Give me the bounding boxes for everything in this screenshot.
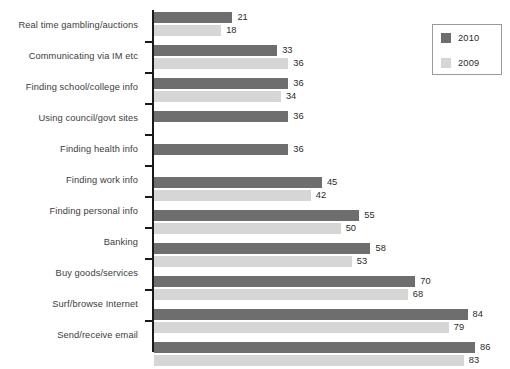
bar-2009: [154, 322, 449, 333]
bar-2009: [154, 58, 288, 69]
bar-2010: [154, 177, 322, 188]
bar-row: 79: [154, 322, 510, 333]
bar-row: 21: [154, 12, 510, 23]
axis-tick: [145, 41, 153, 43]
axis-tick: [145, 227, 153, 229]
bar-value-label: 50: [346, 221, 356, 235]
bar-value-label: 68: [413, 287, 423, 301]
bar-group: 3634: [154, 78, 510, 109]
bar-2009: [154, 91, 281, 102]
category-label: Send/receive email: [0, 320, 146, 351]
bar-group: 36: [154, 144, 510, 175]
axis-tick: [145, 196, 153, 198]
legend-swatch-icon: [441, 33, 451, 43]
bar-2009: [154, 190, 311, 201]
bar-value-label: 34: [286, 89, 296, 103]
category-label: Finding health info: [0, 134, 146, 165]
bar-value-label: 33: [282, 43, 292, 57]
bar-2009: [154, 355, 464, 366]
category-label: Finding school/college info: [0, 72, 146, 103]
bar-2009: [154, 289, 408, 300]
chart-legend: 20102009: [432, 24, 502, 75]
bar-value-label: 42: [316, 188, 326, 202]
category-label: Buy goods/services: [0, 258, 146, 289]
bar-row: 83: [154, 355, 510, 366]
bar-value-label: 70: [420, 274, 430, 288]
bar-chart: Real time gambling/auctionsCommunicating…: [0, 0, 510, 369]
bar-group: 36: [154, 111, 510, 142]
bar-row: 86: [154, 342, 510, 353]
bar-value-label: 58: [375, 241, 385, 255]
bar-value-label: 45: [327, 175, 337, 189]
bar-2010: [154, 144, 288, 155]
bar-row: 70: [154, 276, 510, 287]
bar-2010: [154, 342, 475, 353]
category-label: Real time gambling/auctions: [0, 10, 146, 41]
bar-row: 42: [154, 190, 510, 201]
legend-item-2010[interactable]: 2010: [433, 25, 501, 50]
axis-tick: [145, 320, 153, 322]
bar-row: 36: [154, 78, 510, 89]
bar-value-label: 36: [293, 76, 303, 90]
bar-2010: [154, 309, 468, 320]
bar-2010: [154, 45, 277, 56]
legend-label: 2010: [458, 33, 479, 43]
bar-value-label: 18: [226, 23, 236, 37]
bar-row: 50: [154, 223, 510, 234]
bar-group: 8683: [154, 342, 510, 369]
bar-row: [154, 157, 510, 168]
bar-value-label: 36: [293, 56, 303, 70]
axis-tick: [145, 289, 153, 291]
category-label: Banking: [0, 227, 146, 258]
bar-row: 34: [154, 91, 510, 102]
bar-2010: [154, 78, 288, 89]
bar-value-label: 83: [469, 353, 479, 367]
bar-group: 5853: [154, 243, 510, 274]
bar-row: 84: [154, 309, 510, 320]
category-label: Surf/browse Internet: [0, 289, 146, 320]
category-label: Finding work info: [0, 165, 146, 196]
bar-row: 55: [154, 210, 510, 221]
bar-value-label: 86: [480, 340, 490, 354]
bar-2010: [154, 12, 232, 23]
bar-row: 36: [154, 144, 510, 155]
bar-group: 8479: [154, 309, 510, 340]
bar-row: 58: [154, 243, 510, 254]
bar-value-label: 53: [357, 254, 367, 268]
category-label: Finding personal info: [0, 196, 146, 227]
category-label: Using council/govt sites: [0, 103, 146, 134]
bar-2009: [154, 25, 221, 36]
bar-value-label: 84: [473, 307, 483, 321]
legend-label: 2009: [458, 58, 479, 68]
bar-2009: [154, 223, 341, 234]
bar-row: [154, 124, 510, 135]
category-label: Communicating via IM etc: [0, 41, 146, 72]
bar-value-label: 21: [237, 10, 247, 24]
bar-value-label: 36: [293, 109, 303, 123]
axis-tick: [145, 165, 153, 167]
bar-2010: [154, 111, 288, 122]
bar-row: 68: [154, 289, 510, 300]
bar-row: 45: [154, 177, 510, 188]
axis-tick: [145, 103, 153, 105]
bar-group: 5550: [154, 210, 510, 241]
bar-2010: [154, 243, 370, 254]
bar-group: 4542: [154, 177, 510, 208]
bar-2009: [154, 256, 352, 267]
bar-2010: [154, 276, 415, 287]
legend-item-2009[interactable]: 2009: [433, 50, 501, 75]
bar-value-label: 79: [454, 320, 464, 334]
bar-group: 7068: [154, 276, 510, 307]
bar-value-label: 36: [293, 142, 303, 156]
bar-row: 36: [154, 111, 510, 122]
legend-swatch-icon: [441, 58, 451, 68]
category-axis-labels: Real time gambling/auctionsCommunicating…: [0, 10, 146, 351]
axis-tick: [145, 134, 153, 136]
bar-2010: [154, 210, 359, 221]
bar-value-label: 55: [364, 208, 374, 222]
bar-row: 53: [154, 256, 510, 267]
axis-tick: [145, 258, 153, 260]
axis-tick: [145, 72, 153, 74]
